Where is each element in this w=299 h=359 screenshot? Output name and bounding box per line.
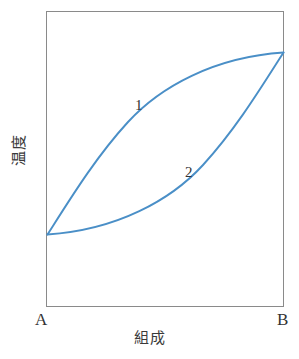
curve-label-2: 2 [185, 165, 193, 180]
x-axis-endpoint-label-b: B [277, 311, 288, 328]
plot-frame [46, 11, 284, 307]
x-axis-endpoint-label-a: A [35, 311, 47, 328]
phase-diagram-figure: 1 2 温度 組成 A B [0, 0, 299, 359]
x-axis-title: 組成 [0, 331, 299, 346]
curve-label-1: 1 [135, 98, 143, 113]
y-axis-title: 温度 [12, 122, 27, 178]
